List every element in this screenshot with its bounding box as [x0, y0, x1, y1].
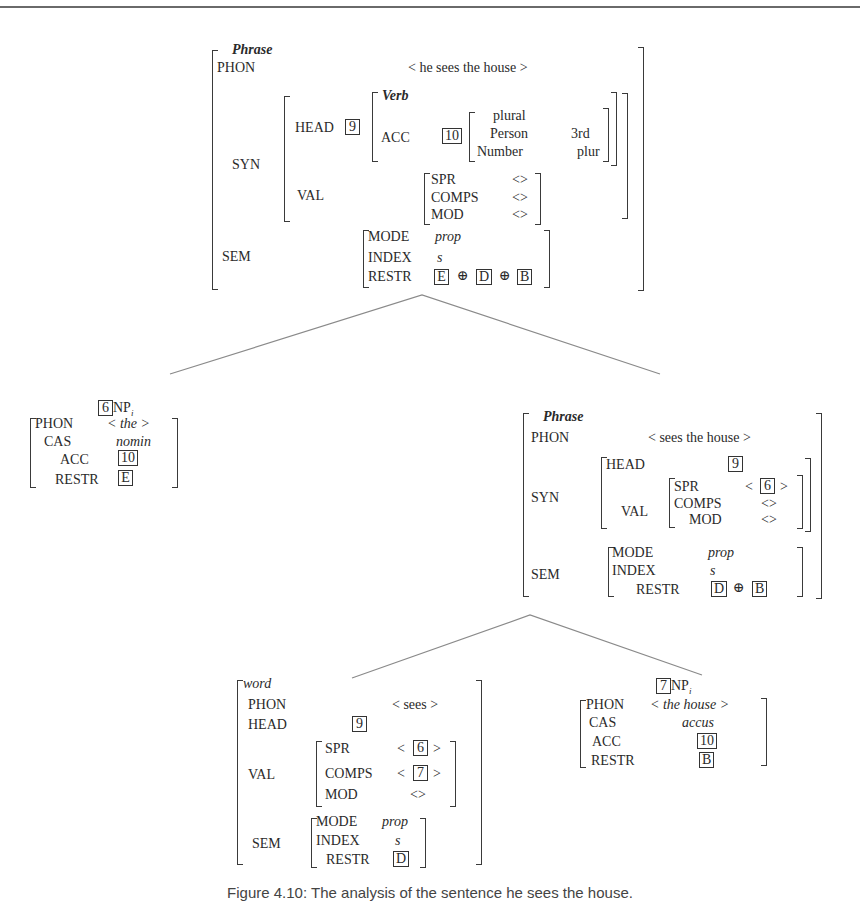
- verb-spr-open: <: [397, 741, 405, 757]
- head-label: HEAD: [295, 120, 334, 136]
- np-object-phon-value: < the house >: [650, 697, 729, 713]
- vp-phon-label: PHON: [531, 430, 569, 446]
- np-object-restr-label: RESTR: [591, 753, 635, 769]
- oplus-1: ⊕: [457, 268, 469, 284]
- verb-comps-label: COMPS: [325, 766, 372, 782]
- root-phon-label: PHON: [217, 60, 255, 76]
- verb-type: word: [243, 676, 271, 692]
- root-type: Phrase: [232, 42, 272, 58]
- verb-head-label: HEAD: [248, 717, 287, 733]
- vp-syn-label: SYN: [531, 490, 559, 506]
- verb-left-bracket: [237, 680, 243, 865]
- vp-mod-value: <>: [761, 512, 777, 528]
- verb-head-tag: 9: [352, 716, 367, 732]
- np-subject-tag: 6: [98, 400, 113, 416]
- person-value: 3rd: [571, 126, 590, 142]
- verb-comps-tag: 7: [413, 765, 428, 781]
- vp-comps-value: <>: [761, 496, 777, 512]
- val-left-bracket: [424, 173, 430, 225]
- vp-restr-tag-b: B: [752, 581, 767, 597]
- figure-caption: Figure 4.10: The analysis of the sentenc…: [0, 884, 860, 901]
- verb-spr-close: >: [433, 741, 441, 757]
- vp-restr-tag-d: D: [711, 581, 727, 597]
- np-object-cat-label: NP: [671, 678, 689, 693]
- verb-spr-label: SPR: [325, 741, 350, 757]
- verb-right-bracket: [476, 680, 482, 865]
- vp-mod-label: MOD: [689, 512, 722, 528]
- acc-inner-right-bracket: [603, 108, 609, 162]
- verb-index-value: s: [395, 833, 400, 849]
- verb-restr-tag: D: [393, 851, 409, 867]
- head-tag-box: 9: [345, 119, 360, 135]
- oplus-2: ⊕: [499, 268, 511, 284]
- acc-tag-box: 10: [442, 128, 462, 144]
- np-subject-cas-value: nomin: [116, 434, 151, 450]
- verb-mode-label: MODE: [316, 814, 357, 830]
- verb-sem-right-bracket: [420, 818, 426, 868]
- vp-oplus: ⊕: [733, 580, 745, 596]
- vp-mode-label: MODE: [612, 545, 653, 561]
- acc-inner-left-bracket: [469, 112, 475, 162]
- np-object-cas-value: accus: [682, 715, 714, 731]
- np-object-right-bracket: [761, 698, 767, 766]
- vp-sem-label: SEM: [531, 567, 560, 583]
- verb-val-left-bracket: [316, 741, 322, 807]
- vp-right-bracket: [816, 413, 822, 599]
- vp-val-label: VAL: [621, 504, 648, 520]
- vp-restr-label: RESTR: [636, 582, 680, 598]
- np-object-cas-label: CAS: [589, 715, 616, 731]
- vp-index-value: s: [710, 563, 715, 579]
- root-phon-value: < he sees the house >: [408, 60, 528, 76]
- vp-head-label: HEAD: [606, 457, 645, 473]
- np-subject-restr-label: RESTR: [55, 472, 99, 488]
- verb-restr-label: RESTR: [326, 852, 370, 868]
- vp-spr-close: >: [780, 479, 788, 495]
- head-type: Verb: [382, 88, 408, 104]
- np-object-restr-tag: B: [699, 752, 714, 768]
- verb-index-label: INDEX: [316, 833, 360, 849]
- root-left-bracket: [212, 50, 218, 290]
- np-object-acc-label: ACC: [592, 734, 621, 750]
- vp-spr-tag: 6: [760, 478, 775, 494]
- mod-value: <>: [512, 207, 528, 223]
- verb-phon-label: PHON: [248, 697, 286, 713]
- vp-mode-value: prop: [708, 545, 734, 561]
- vp-index-label: INDEX: [612, 563, 656, 579]
- verb-left-bracket: [372, 92, 378, 162]
- np-subject-acc-tag: 10: [118, 450, 138, 466]
- vp-spr-open: <: [745, 479, 753, 495]
- root-sem-label: SEM: [222, 249, 251, 265]
- index-value: s: [437, 250, 442, 266]
- np-subject-phon-value: < the >: [107, 416, 150, 432]
- np-subject-cat-label: NP: [113, 400, 131, 415]
- val-label: VAL: [297, 188, 324, 204]
- verb-val-label: VAL: [248, 767, 275, 783]
- np-subject-cas-label: CAS: [44, 434, 71, 450]
- np-subject-phon-label: PHON: [35, 416, 73, 432]
- acc-label: ACC: [381, 130, 410, 146]
- np-subject-restr-tag: E: [118, 470, 133, 486]
- verb-right-bracket: [611, 92, 617, 166]
- np-subject-acc-label: ACC: [60, 452, 89, 468]
- verb-val-right-bracket: [450, 741, 456, 807]
- mod-label: MOD: [431, 207, 464, 223]
- restr-label: RESTR: [368, 269, 412, 285]
- restr-tag-e: E: [434, 269, 449, 285]
- number-label: Number: [477, 144, 523, 160]
- comps-label: COMPS: [431, 190, 478, 206]
- np-object-phon-label: PHON: [586, 697, 624, 713]
- verb-mod-label: MOD: [325, 787, 358, 803]
- sem-right-bracket: [544, 230, 550, 288]
- np-subject-right-bracket: [172, 418, 178, 488]
- vp-sem-right-bracket: [797, 547, 803, 597]
- vp-phon-value: < sees the house >: [648, 430, 751, 446]
- verb-phon-value: < sees >: [392, 697, 438, 713]
- restr-tag-d: D: [476, 269, 492, 285]
- verb-spr-tag: 6: [413, 740, 428, 756]
- verb-mode-value: prop: [382, 814, 408, 830]
- restr-tag-b: B: [517, 269, 532, 285]
- mode-value: prop: [435, 229, 461, 245]
- np-object-subscript: i: [689, 686, 692, 696]
- index-label: INDEX: [368, 250, 412, 266]
- comps-value: <>: [512, 190, 528, 206]
